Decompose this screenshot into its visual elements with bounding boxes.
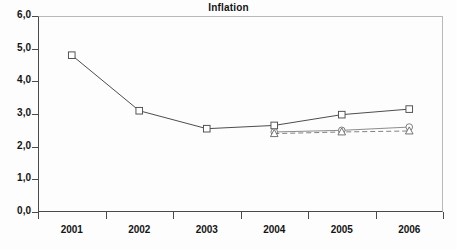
y-tick-mark (32, 147, 38, 148)
y-tick-label: 4,0 (17, 74, 31, 85)
x-tick-label: 2003 (196, 224, 218, 235)
y-tick-mark (32, 114, 38, 115)
x-tick-label: 2004 (263, 224, 285, 235)
y-tick-label: 2,0 (17, 140, 31, 151)
inflation-chart: Inflation 0,01,02,03,04,05,06,0 20012002… (0, 0, 457, 250)
x-tick-mark (241, 212, 242, 219)
y-tick-mark (32, 179, 38, 180)
x-tick-label: 2005 (331, 224, 353, 235)
x-tick-label: 2002 (128, 224, 150, 235)
y-tick-mark (32, 49, 38, 50)
x-tick-mark (38, 212, 39, 219)
x-tick-label: 2001 (61, 224, 83, 235)
x-tick-mark (443, 212, 444, 219)
x-tick-mark (308, 212, 309, 219)
y-tick-label: 1,0 (17, 172, 31, 183)
chart-title: Inflation (0, 2, 457, 13)
x-tick-mark (106, 212, 107, 219)
y-tick-label: 6,0 (17, 9, 31, 20)
y-tick-label: 0,0 (17, 205, 31, 216)
y-tick-label: 3,0 (17, 107, 31, 118)
x-tick-mark (376, 212, 377, 219)
y-tick-mark (32, 16, 38, 17)
x-tick-label: 2006 (398, 224, 420, 235)
y-tick-label: 5,0 (17, 42, 31, 53)
plot-area (38, 16, 443, 212)
y-tick-mark (32, 81, 38, 82)
x-tick-mark (173, 212, 174, 219)
